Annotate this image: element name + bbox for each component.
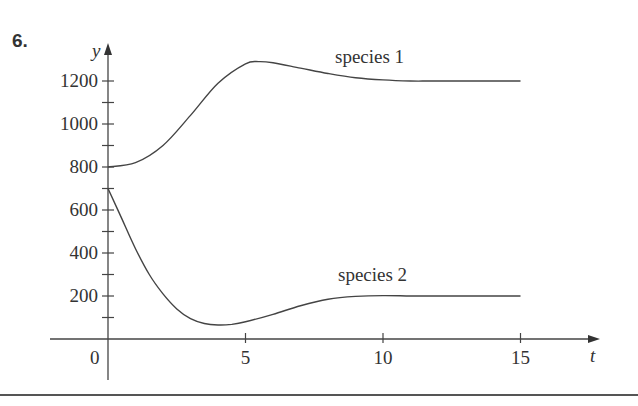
species-1-curve bbox=[108, 61, 521, 167]
axes bbox=[50, 50, 596, 380]
species-1-label: species 1 bbox=[335, 46, 404, 67]
y-tick-labels: 20040060080010001200 bbox=[60, 70, 98, 306]
x-tick-labels: 51015 bbox=[241, 347, 530, 368]
species-2-label: species 2 bbox=[338, 264, 407, 285]
x-tick-label: 10 bbox=[374, 347, 393, 368]
y-tick-label: 400 bbox=[70, 242, 99, 263]
x-tick-label: 15 bbox=[511, 347, 530, 368]
bottom-divider bbox=[0, 394, 638, 396]
y-tick-label: 600 bbox=[70, 199, 99, 220]
x-axis-label: t bbox=[590, 345, 596, 366]
origin-label: 0 bbox=[90, 347, 100, 368]
y-axis-arrow-icon bbox=[104, 43, 112, 55]
x-ticks bbox=[246, 333, 521, 343]
line-chart: 20040060080010001200 51015 y t 0 species… bbox=[0, 0, 638, 406]
y-tick-label: 1200 bbox=[60, 70, 98, 91]
x-tick-label: 5 bbox=[241, 347, 251, 368]
x-axis-arrow-icon bbox=[588, 335, 600, 343]
y-tick-label: 1000 bbox=[60, 113, 98, 134]
y-axis-label: y bbox=[90, 40, 101, 61]
y-tick-label: 200 bbox=[70, 285, 99, 306]
y-tick-label: 800 bbox=[70, 156, 99, 177]
species-2-curve bbox=[108, 189, 521, 326]
